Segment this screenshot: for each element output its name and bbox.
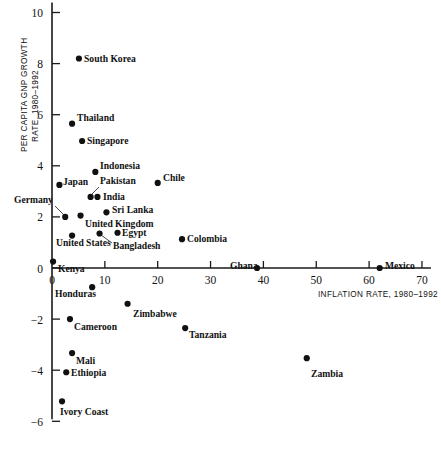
- y-tick-label: 2: [37, 211, 43, 223]
- data-point: [124, 301, 130, 307]
- data-point-label: Ghana: [230, 260, 258, 271]
- data-point: [76, 55, 82, 61]
- data-point-label: Japan: [63, 176, 89, 187]
- x-tick-label: 40: [258, 274, 270, 286]
- data-point-label: Colombia: [187, 233, 227, 244]
- data-point: [155, 180, 161, 186]
- data-point: [69, 350, 75, 356]
- data-point-label: Indonesia: [100, 160, 140, 171]
- data-point-label: Mali: [76, 355, 96, 366]
- data-points-group: [50, 55, 383, 404]
- data-point-label: Ivory Coast: [60, 406, 109, 417]
- data-point-label: Egypt: [122, 227, 147, 238]
- data-point: [92, 169, 98, 175]
- data-point: [377, 265, 383, 271]
- y-tick-label: −2: [31, 314, 43, 326]
- data-point: [79, 138, 85, 144]
- data-point: [59, 398, 65, 404]
- data-point: [304, 355, 310, 361]
- data-point: [94, 194, 100, 200]
- data-point: [50, 259, 56, 265]
- data-point-label: India: [103, 191, 125, 202]
- data-point-label: Mexico: [385, 260, 415, 271]
- data-point-label: Kenya: [58, 263, 85, 274]
- y-tick-label: 10: [32, 7, 44, 19]
- data-point-label: Zimbabwe: [133, 308, 177, 319]
- data-point-label: Bangladesh: [113, 240, 161, 251]
- data-point-label: Germany: [14, 194, 53, 205]
- data-point: [67, 316, 73, 322]
- data-point-label: Sri Lanka: [112, 204, 154, 215]
- label-leader-line: [91, 187, 99, 195]
- data-point-label: Cameroon: [74, 321, 118, 332]
- data-point-label: Chile: [163, 172, 186, 183]
- x-tick-label: 60: [363, 274, 375, 286]
- scatter-plot-figure: 0102030405060701086420−2−4−6 South Korea…: [0, 0, 441, 459]
- data-point: [62, 214, 68, 220]
- data-point-label: Thailand: [77, 112, 115, 123]
- x-tick-label: 10: [99, 274, 111, 286]
- y-tick-label: −4: [31, 365, 43, 377]
- x-axis-title: INFLATION RATE, 1980–1992: [318, 290, 438, 299]
- y-tick-label: 8: [37, 58, 43, 70]
- data-point: [179, 236, 185, 242]
- data-point-label: Ethiopia: [71, 367, 106, 378]
- y-axis-title-line2: RATE, 1980–1992: [31, 70, 40, 142]
- data-point-label: Pakistan: [100, 175, 136, 186]
- data-point-label: United States: [56, 237, 111, 248]
- data-point: [114, 230, 120, 236]
- x-tick-label: 50: [311, 274, 323, 286]
- data-point-label: Singapore: [87, 135, 129, 146]
- tick-marks-group: [52, 13, 422, 422]
- data-point: [96, 230, 102, 236]
- data-point-label: Tanzania: [189, 329, 227, 340]
- data-point-label: Zambia: [311, 368, 343, 379]
- data-point-label: Honduras: [55, 288, 96, 299]
- data-point: [56, 182, 62, 188]
- data-point: [77, 213, 83, 219]
- x-tick-label: 20: [152, 274, 164, 286]
- plot-canvas: 0102030405060701086420−2−4−6 South Korea…: [0, 0, 441, 459]
- y-tick-label: 4: [37, 160, 43, 172]
- data-point: [63, 369, 69, 375]
- data-point: [87, 194, 93, 200]
- data-point-label: South Korea: [84, 53, 136, 64]
- data-point: [69, 121, 75, 127]
- data-point: [103, 209, 109, 215]
- y-tick-label: −6: [31, 416, 43, 428]
- y-tick-label: 0: [37, 263, 43, 275]
- x-tick-label: 70: [416, 274, 428, 286]
- x-tick-label: 30: [205, 274, 217, 286]
- y-axis-title-line1: PER CAPITA GNP GROWTH: [20, 38, 29, 152]
- label-leader-line: [55, 206, 64, 215]
- data-point: [182, 325, 188, 331]
- x-tick-label: 0: [49, 274, 55, 286]
